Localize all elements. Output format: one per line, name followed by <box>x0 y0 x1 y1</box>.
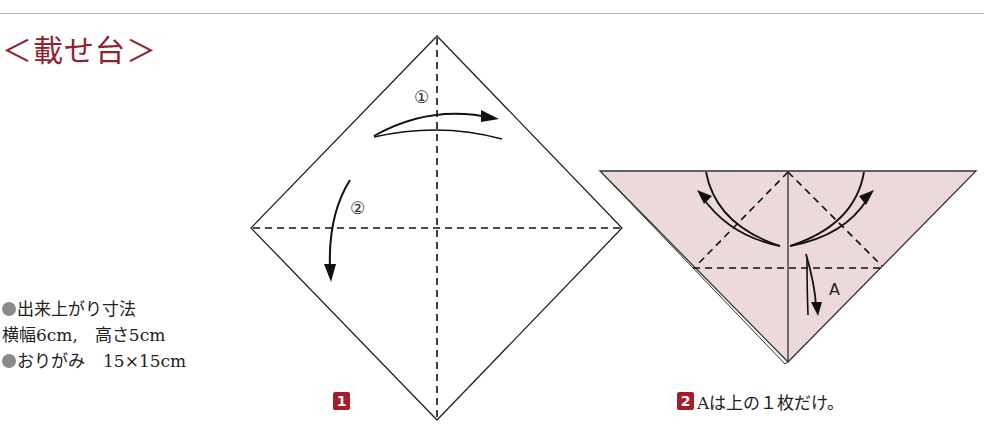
step1-diagram: ① ② <box>251 36 622 420</box>
folding-diagrams: ① ② A <box>0 0 984 432</box>
arrow-label-1: ① <box>414 87 429 107</box>
step-badge-1: 1 <box>333 392 350 410</box>
arrow-label-2: ② <box>350 198 365 218</box>
step2-caption: Aは上の１枚だけ。 <box>697 389 844 414</box>
step-badge-2: 2 <box>677 392 694 410</box>
step2-diagram: A <box>600 171 976 364</box>
flap-label-a: A <box>829 280 840 299</box>
